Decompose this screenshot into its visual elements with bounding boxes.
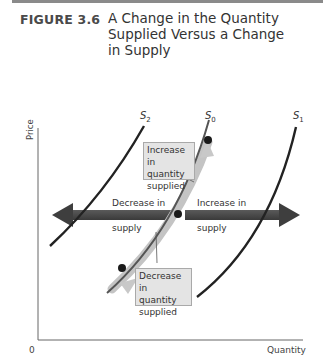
label-s2: S2 [140,110,151,124]
callout-increase-quantity-supplied: Increase in quantity supplied [143,142,195,180]
callout-decrease-quantity-supplied: Decrease in quantity supplied [135,268,192,306]
point-lower [118,264,126,272]
callout-text: Increase in [147,144,191,168]
increase-supply-label-line2: supply [197,223,227,233]
point-middle [174,210,182,218]
callout-text: quantity [147,168,191,180]
increase-supply-label-line1: Increase in [197,198,246,208]
label-s0: S0 [205,110,216,124]
point-upper [204,136,212,144]
decrease-supply-label-line1: Decrease in [112,198,165,208]
callout-text: Decrease in [139,270,188,294]
callout-text: supplied [147,180,191,192]
decrease-supply-label-line2: supply [112,223,142,233]
callout-text: supplied [139,306,188,318]
callout-text: quantity [139,294,188,306]
label-s1: S1 [293,110,304,124]
